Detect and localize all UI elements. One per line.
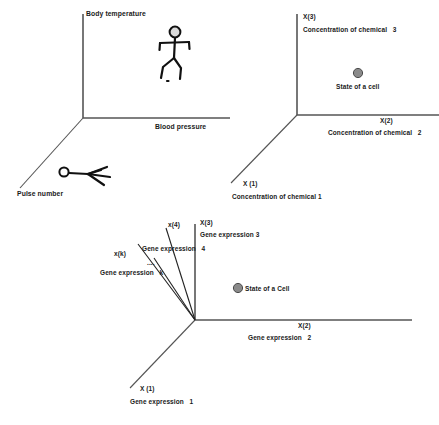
label-x2-name: X(2): [380, 118, 393, 125]
label-xk-name: x(k): [114, 251, 126, 258]
label-x1-name: X (1): [243, 181, 258, 188]
label-x3-name: X(3): [303, 14, 316, 21]
state-of-a-cell-point: [353, 68, 362, 77]
axis-x1-gene: [130, 320, 195, 388]
label-ellipsis: ....: [147, 260, 155, 267]
label-x4-name: x(4): [168, 222, 180, 229]
label-xk-desc: Gene expression k: [100, 270, 163, 277]
label-x3-name: X(3): [200, 220, 213, 227]
panel-chemical-state-space: X(3) Concentration of chemical 3 X(2) Co…: [230, 0, 439, 215]
label-blood-pressure: Blood pressure: [155, 123, 206, 130]
label-x4-desc: Gene expression 4: [142, 246, 205, 253]
axis-pulse-number: [20, 118, 83, 188]
label-x1-desc: Concentration of chemical 1: [232, 194, 322, 201]
label-x3-desc: Gene expression 3: [200, 232, 260, 239]
label-body-temperature: Body temperature: [86, 10, 146, 17]
label-x2-desc: Concentration of chemical 2: [328, 130, 422, 137]
label-x2-name: X(2): [298, 323, 311, 330]
axis-intermediate-gene: [154, 258, 195, 320]
label-x2-desc: Gene expression 2: [248, 335, 311, 342]
panel-physiological-axes: [0, 0, 230, 210]
label-pulse-number: Pulse number: [17, 190, 63, 197]
axis-x4-gene: [166, 228, 195, 320]
label-x1-name: X (1): [140, 386, 155, 393]
label-x3-desc: Concentration of chemical 3: [303, 27, 397, 34]
state-of-a-cell-point: [233, 283, 242, 292]
running-person-projected-icon: [59, 167, 110, 185]
running-person-upright-icon: [160, 27, 190, 81]
axis-xk-gene: [138, 244, 195, 320]
panel-gene-expression-state-space: X(3) Gene expression 3 x(4) Gene express…: [90, 210, 439, 425]
label-state-of-a-cell: State of a Cell: [245, 286, 289, 293]
label-x1-desc: Gene expression 1: [130, 399, 193, 406]
label-state-of-a-cell: State of a cell: [336, 84, 379, 91]
panel-physiological-state-space: Body temperature Blood pressure Pulse nu…: [0, 0, 230, 210]
axis-x1-chemical: [231, 115, 297, 183]
